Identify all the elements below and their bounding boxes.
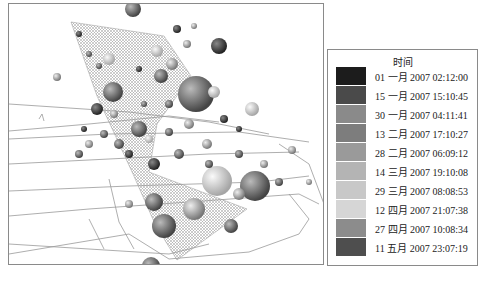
legend-label: 30 一月 2007 04:11:41: [375, 107, 468, 122]
legend-entry: 29 三月 2007 08:08:53: [336, 181, 468, 199]
legend-swatch: [336, 86, 366, 104]
legend-swatch: [336, 143, 366, 161]
legend-entry: 14 三月 2007 19:10:08: [336, 162, 468, 180]
legend-label: 28 二月 2007 06:09:12: [375, 145, 468, 160]
legend-entry: 27 四月 2007 10:08:34: [336, 219, 468, 237]
legend-swatch: [336, 124, 366, 142]
legend-entry: 30 一月 2007 04:11:41: [336, 105, 468, 123]
legend-entry: 13 二月 2007 17:10:27: [336, 124, 468, 142]
3d-plot-area[interactable]: [8, 3, 324, 265]
legend-swatch: [336, 219, 366, 237]
legend-label: 01 一月 2007 02:12:00: [375, 69, 468, 84]
scene-graphic: [9, 4, 324, 265]
legend-label: 14 三月 2007 19:10:08: [375, 164, 468, 179]
legend-label: 15 一月 2007 15:10:45: [375, 88, 468, 103]
legend-swatch: [336, 238, 366, 256]
legend-label: 11 五月 2007 23:07:19: [375, 240, 468, 255]
legend-swatch: [336, 181, 366, 199]
legend-label: 29 三月 2007 08:08:53: [375, 183, 468, 198]
legend-entry: 01 一月 2007 02:12:00: [336, 67, 468, 85]
legend-entry: 11 五月 2007 23:07:19: [336, 238, 468, 256]
legend-swatch: [336, 162, 366, 180]
legend-swatch: [336, 200, 366, 218]
legend-swatch: [336, 67, 366, 85]
legend-label: 27 四月 2007 10:08:34: [375, 221, 468, 236]
legend-swatch: [336, 105, 366, 123]
legend-entry: 12 四月 2007 21:07:38: [336, 200, 468, 218]
legend: 时间 01 一月 2007 02:12:00 15 一月 2007 15:10:…: [327, 49, 478, 266]
legend-entry: 28 二月 2007 06:09:12: [336, 143, 468, 161]
legend-label: 12 四月 2007 21:07:38: [375, 202, 468, 217]
legend-entry: 15 一月 2007 15:10:45: [336, 86, 468, 104]
legend-label: 13 二月 2007 17:10:27: [375, 126, 468, 141]
